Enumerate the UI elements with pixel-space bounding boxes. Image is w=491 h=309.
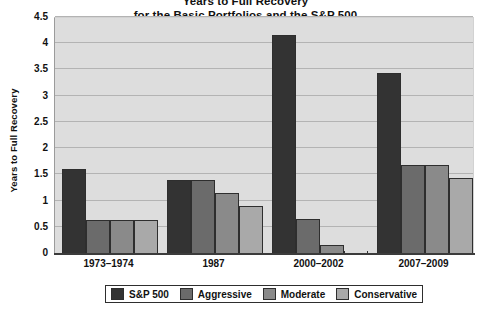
legend-swatch-icon [263,288,276,300]
chart-legend: S&P 500AggressiveModerateConservative [105,285,423,303]
y-tick-label: 0 [14,248,48,258]
legend-swatch-icon [111,288,124,300]
legend-item[interactable]: S&P 500 [111,288,169,300]
y-tick-label: 4 [14,38,48,48]
legend-item[interactable]: Conservative [336,288,417,300]
legend-item[interactable]: Moderate [263,288,325,300]
legend-label: Conservative [354,289,417,300]
x-tick-label: 2007–2009 [379,258,469,269]
y-tick-label: 4.5 [14,12,48,22]
y-tick-label: 1 [14,196,48,206]
x-tick-label: 1973–1974 [64,258,154,269]
legend-label: Aggressive [198,289,252,300]
y-tick-label: 3 [14,91,48,101]
legend-swatch-icon [336,288,349,300]
y-tick-label: 0.5 [14,222,48,232]
y-tick-label: 1.5 [14,169,48,179]
legend-swatch-icon [180,288,193,300]
legend-label: S&P 500 [129,289,169,300]
legend-item[interactable]: Aggressive [180,288,252,300]
x-tick-label: 1987 [169,258,259,269]
y-tick-label: 2 [14,143,48,153]
x-tick-label: 2000–2002 [274,258,364,269]
legend-label: Moderate [281,289,325,300]
y-tick-label: 2.5 [14,117,48,127]
y-tick-label: 3.5 [14,64,48,74]
chart-page: Years to Full Recovery for the Basic Por… [0,0,491,309]
